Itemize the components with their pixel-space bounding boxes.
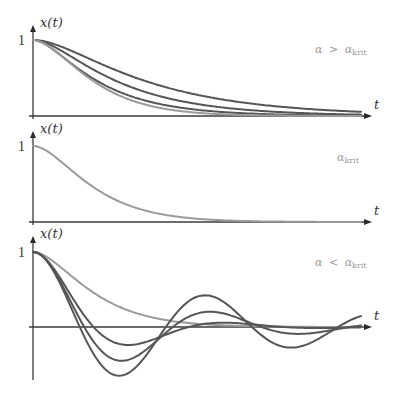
critical-curve xyxy=(33,252,361,327)
krit-subscript: krit xyxy=(352,261,367,270)
y-axis-label: x(t) xyxy=(40,226,63,241)
x-axis-label: t xyxy=(374,203,380,218)
relation-symbol: > xyxy=(329,43,338,56)
y-axis-arrow-icon xyxy=(30,25,36,32)
relation-symbol: < xyxy=(329,256,338,269)
panel-overdamped: x(t) t 1 α > αkrit xyxy=(18,15,380,119)
curves-group xyxy=(33,252,361,376)
condition-label: α < αkrit xyxy=(315,256,367,270)
x-axis-label: t xyxy=(374,308,380,323)
y-axis-label: x(t) xyxy=(40,121,63,136)
y-axis-label: x(t) xyxy=(40,15,63,30)
damping-figure: x(t) t 1 α > αkrit x(t) t 1 αkrit x(t) t… xyxy=(0,0,395,395)
curves-group xyxy=(33,146,361,222)
alpha-symbol: α xyxy=(315,256,323,269)
critical-curve xyxy=(33,146,361,222)
underdamped-curve xyxy=(33,252,361,361)
y-tick-one: 1 xyxy=(18,33,25,48)
krit-subscript: krit xyxy=(352,48,367,57)
x-axis-arrow-icon xyxy=(364,324,372,330)
overdamped-curve xyxy=(33,40,361,112)
y-axis-arrow-icon xyxy=(30,131,36,138)
y-axis-arrow-icon xyxy=(30,236,36,243)
panel-underdamped: x(t) t 1 α < αkrit xyxy=(18,226,380,380)
condition-label: αkrit xyxy=(337,151,360,165)
overdamped-curve xyxy=(33,40,361,115)
krit-subscript: krit xyxy=(344,156,359,165)
y-tick-one: 1 xyxy=(18,139,25,154)
y-tick-one: 1 xyxy=(18,245,25,260)
panel-critical: x(t) t 1 αkrit xyxy=(18,121,380,225)
x-axis-arrow-icon xyxy=(364,113,372,119)
x-axis-label: t xyxy=(374,97,380,112)
curves-group xyxy=(33,40,361,116)
x-axis-arrow-icon xyxy=(364,219,372,225)
condition-label: α > αkrit xyxy=(315,43,367,57)
alpha-symbol: α xyxy=(315,43,323,56)
